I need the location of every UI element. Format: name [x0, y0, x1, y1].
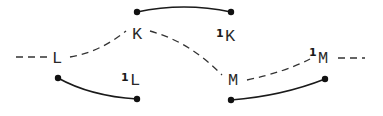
node-m: M [228, 71, 238, 90]
arc-k-1k [137, 7, 231, 12]
lkm-diagram: L K M 1 L 1 K 1 M [0, 0, 383, 116]
prime-1l: 1 [121, 71, 129, 84]
dashed-m-to-1m [247, 59, 310, 80]
node-1k: K [225, 27, 236, 46]
diagram-svg: L K M 1 L 1 K 1 M [0, 0, 383, 116]
node-1l: L [130, 71, 140, 90]
dot-1k [228, 9, 234, 15]
dot-1l [134, 96, 140, 102]
node-k: K [132, 25, 143, 44]
arc-m-1m [231, 79, 325, 100]
node-1m: M [318, 49, 328, 68]
dot-m [228, 97, 234, 103]
dot-1m [322, 76, 328, 82]
dashed-k-to-m [150, 31, 222, 75]
prime-1k: 1 [216, 27, 224, 40]
dot-l [55, 75, 61, 81]
prime-1m: 1 [309, 46, 317, 59]
dot-k [134, 9, 140, 15]
dashed-l-to-k [70, 31, 126, 57]
node-l: L [52, 49, 62, 68]
